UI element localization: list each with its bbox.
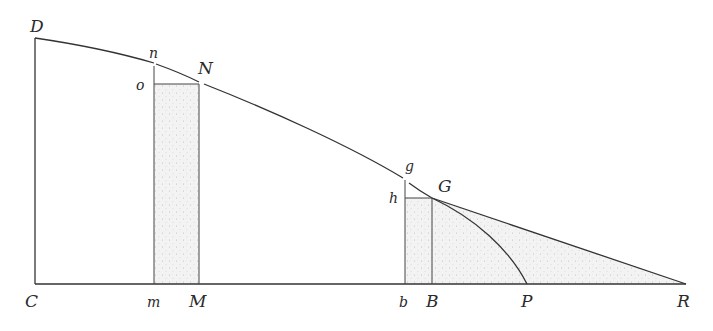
- curve-Ng: [204, 84, 403, 178]
- curve-DG: [35, 38, 154, 63]
- label-D: D: [29, 16, 44, 36]
- diagram-canvas: D n o N g h G C m M b B P R: [0, 0, 713, 331]
- diagram-svg: D n o N g h G C m M b B P R: [0, 0, 713, 331]
- shaded-rect-mM: [154, 84, 199, 284]
- label-N: N: [197, 58, 214, 78]
- label-m: m: [147, 294, 160, 310]
- label-n: n: [149, 45, 158, 61]
- curve-nN: [156, 64, 199, 82]
- label-M: M: [188, 291, 207, 311]
- label-o: o: [136, 77, 144, 93]
- label-R: R: [676, 291, 690, 311]
- label-C: C: [25, 291, 38, 311]
- curve-gG: [409, 183, 432, 198]
- label-h: h: [389, 190, 398, 206]
- label-g: g: [405, 158, 414, 174]
- label-G: G: [438, 176, 452, 196]
- label-b: b: [399, 294, 408, 310]
- label-B: B: [425, 291, 439, 311]
- shaded-rect-bB: [405, 198, 432, 284]
- label-P: P: [520, 291, 533, 311]
